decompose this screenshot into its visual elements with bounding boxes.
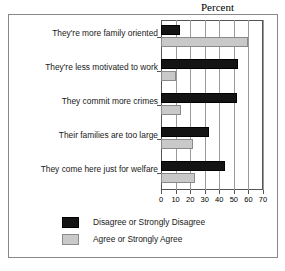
bar-row: They're more family oriented bbox=[161, 20, 263, 54]
bar-row: They're less motivated to work bbox=[161, 54, 263, 88]
bar-agree bbox=[161, 173, 195, 183]
category-label: Their families are too large bbox=[8, 130, 158, 140]
bar-agree bbox=[161, 139, 193, 149]
x-tick bbox=[161, 190, 162, 194]
chart-figure: Percent 010203040506070 They're more fam… bbox=[0, 0, 285, 271]
x-tick bbox=[248, 190, 249, 194]
category-label: They commit more crimes bbox=[8, 96, 158, 106]
bar-disagree bbox=[161, 59, 238, 69]
category-label: They're less motivated to work bbox=[8, 62, 158, 72]
category-label: They're more family oriented bbox=[8, 28, 158, 38]
x-tick bbox=[176, 190, 177, 194]
category-label: They come here just for welfare bbox=[8, 164, 158, 174]
x-tick bbox=[219, 190, 220, 194]
x-tick bbox=[190, 190, 191, 194]
bar-row: They come here just for welfare bbox=[161, 156, 263, 190]
bar-agree bbox=[161, 37, 248, 47]
legend-swatch bbox=[62, 217, 79, 228]
x-tick-label: 70 bbox=[255, 195, 271, 204]
bar-disagree bbox=[161, 25, 180, 35]
gridline bbox=[263, 20, 264, 190]
x-tick bbox=[205, 190, 206, 194]
x-tick bbox=[234, 190, 235, 194]
bar-row: They commit more crimes bbox=[161, 88, 263, 122]
bar-agree bbox=[161, 105, 181, 115]
bar-disagree bbox=[161, 93, 237, 103]
bar-row: Their families are too large bbox=[161, 122, 263, 156]
bar-disagree bbox=[161, 161, 225, 171]
bar-agree bbox=[161, 71, 176, 81]
chart-title: Percent bbox=[150, 0, 285, 14]
legend-label: Agree or Strongly Agree bbox=[93, 233, 182, 246]
legend-label: Disagree or Strongly Disagree bbox=[93, 216, 205, 229]
x-tick bbox=[263, 190, 264, 194]
bar-disagree bbox=[161, 127, 209, 137]
plot-area: 010203040506070 They're more family orie… bbox=[161, 20, 263, 190]
legend-swatch bbox=[62, 234, 79, 245]
